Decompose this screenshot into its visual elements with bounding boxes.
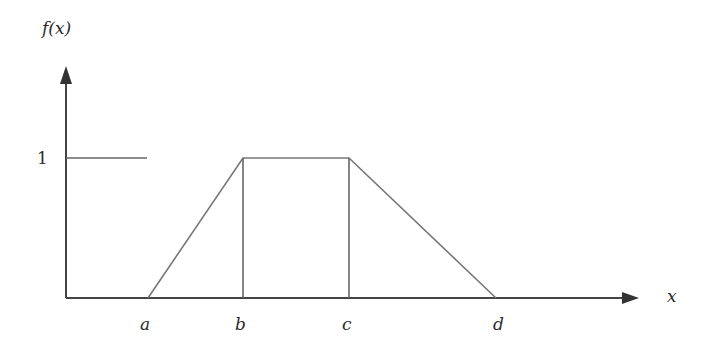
x-axis-label: x — [667, 286, 677, 306]
x-axis-arrow-icon — [622, 292, 639, 304]
y-axis-label: f(x) — [40, 18, 71, 38]
x-point-b: b — [235, 314, 246, 334]
x-point-a: a — [140, 314, 150, 334]
x-point-d: d — [493, 314, 504, 334]
y-tick-label: 1 — [37, 148, 48, 168]
trapezoid-shape — [148, 158, 496, 298]
x-point-c: c — [342, 314, 352, 334]
membership-diagram: f(x) x 1 a b c d — [0, 0, 710, 351]
y-axis-arrow-icon — [60, 66, 72, 84]
